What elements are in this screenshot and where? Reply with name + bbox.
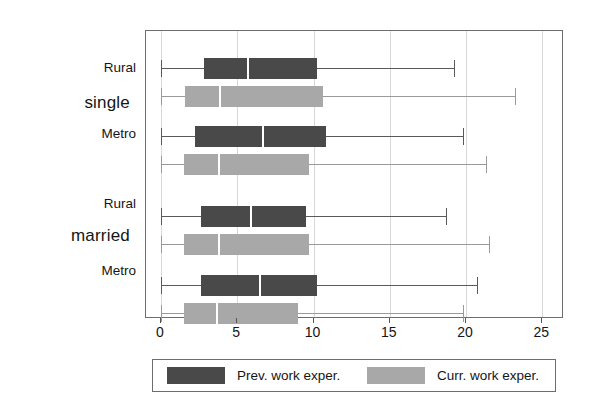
plot-area bbox=[145, 30, 563, 318]
tick-mark-25 bbox=[541, 318, 542, 323]
whisker-cap-max bbox=[477, 277, 478, 294]
gridline-15 bbox=[390, 31, 391, 317]
legend-swatch-prev-icon bbox=[167, 367, 225, 384]
box-body bbox=[204, 58, 317, 79]
legend-label-curr: Curr. work exper. bbox=[437, 368, 539, 383]
whisker-cap-max bbox=[489, 236, 490, 253]
whisker-cap-max bbox=[486, 156, 487, 173]
tick-mark-20 bbox=[465, 318, 466, 323]
tick-label-5: 5 bbox=[232, 324, 240, 340]
legend-swatch-curr-icon bbox=[367, 367, 425, 384]
whisker-cap-max bbox=[454, 60, 455, 77]
median-line bbox=[262, 126, 264, 147]
whisker-cap-min bbox=[161, 156, 162, 173]
legend-label-prev: Prev. work exper. bbox=[237, 368, 340, 383]
tick-label-25: 25 bbox=[533, 324, 549, 340]
whisker-cap-min bbox=[161, 208, 162, 225]
group-label-single: single bbox=[20, 93, 130, 113]
box-plot-chart: single married Rural Metro Rural Metro 0… bbox=[0, 0, 603, 418]
legend-entry-prev: Prev. work exper. bbox=[167, 360, 340, 391]
tick-mark-0 bbox=[160, 318, 161, 323]
tick-label-20: 20 bbox=[457, 324, 473, 340]
tick-label-15: 15 bbox=[381, 324, 397, 340]
median-line bbox=[218, 234, 220, 255]
whisker-cap-max bbox=[446, 208, 447, 225]
whisker-cap-min bbox=[161, 60, 162, 77]
whisker-cap-min bbox=[161, 277, 162, 294]
tick-mark-5 bbox=[236, 318, 237, 323]
category-label-single-metro: Metro bbox=[40, 126, 136, 141]
tick-label-10: 10 bbox=[305, 324, 321, 340]
tick-mark-15 bbox=[389, 318, 390, 323]
box-body bbox=[184, 234, 309, 255]
category-label-married-rural: Rural bbox=[40, 196, 136, 211]
gridline-25 bbox=[542, 31, 543, 317]
whisker-cap-min bbox=[161, 88, 162, 105]
box-body bbox=[184, 154, 309, 175]
gridline-20 bbox=[466, 31, 467, 317]
median-line bbox=[250, 206, 252, 227]
whisker-cap-max bbox=[515, 88, 516, 105]
box-body bbox=[201, 206, 306, 227]
median-line bbox=[218, 154, 220, 175]
category-label-married-metro: Metro bbox=[40, 263, 136, 278]
tick-mark-10 bbox=[313, 318, 314, 323]
whisker-cap-min bbox=[161, 236, 162, 253]
median-line bbox=[247, 58, 249, 79]
x-axis: 0510152025 bbox=[145, 318, 563, 350]
tick-label-0: 0 bbox=[156, 324, 164, 340]
group-label-married: married bbox=[20, 226, 130, 246]
legend-entry-curr: Curr. work exper. bbox=[367, 360, 539, 391]
box-body bbox=[185, 86, 322, 107]
median-line bbox=[259, 275, 261, 296]
box-body bbox=[195, 126, 326, 147]
median-line bbox=[219, 86, 221, 107]
whisker-cap-max bbox=[463, 128, 464, 145]
category-label-single-rural: Rural bbox=[40, 60, 136, 75]
legend: Prev. work exper. Curr. work exper. bbox=[152, 359, 556, 392]
whisker-cap-min bbox=[161, 128, 162, 145]
